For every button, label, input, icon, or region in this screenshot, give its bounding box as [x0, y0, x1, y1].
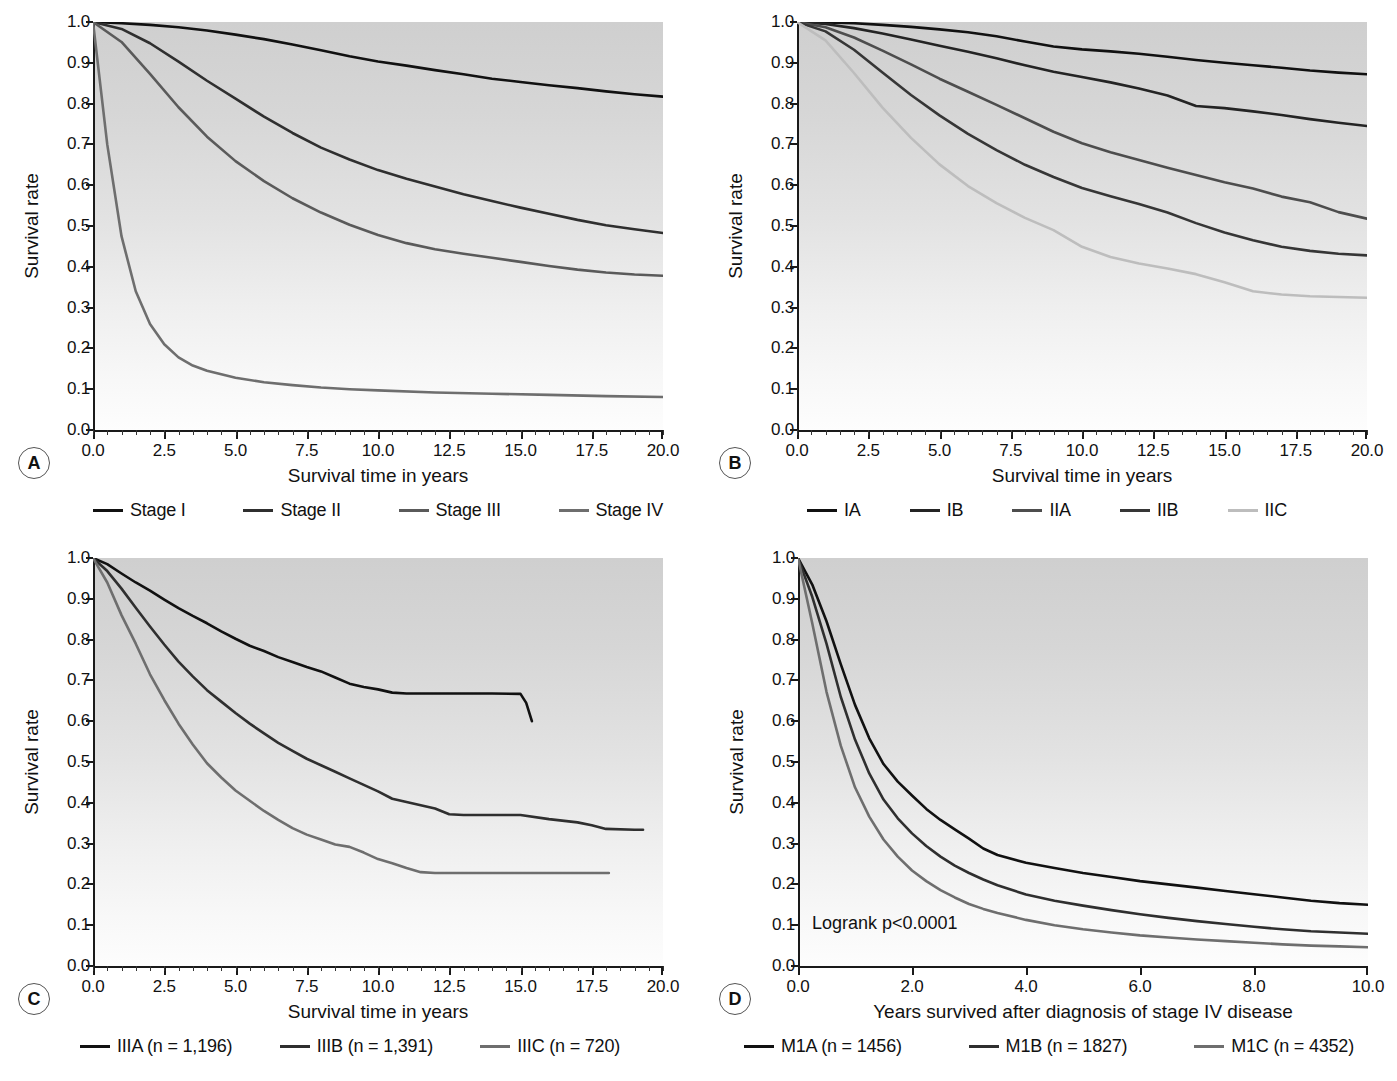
x-tick-label: 20.0 [647, 441, 679, 461]
x-tick-label: 20.0 [647, 977, 679, 997]
x-tick-label: 5.0 [928, 441, 951, 461]
y-tick-mark [86, 598, 93, 600]
legend-label: M1C (n = 4352) [1231, 1036, 1354, 1057]
legend-label: Stage III [436, 500, 501, 521]
legend-item[interactable]: M1A (n = 1456) [744, 1036, 902, 1057]
x-tick-label: 2.0 [900, 977, 923, 997]
x-minor-tick [264, 430, 265, 435]
x-minor-tick [435, 966, 436, 971]
y-tick-mark [86, 802, 93, 804]
x-minor-tick [449, 430, 450, 435]
x-minor-tick [606, 966, 607, 971]
x-minor-tick [1353, 430, 1354, 435]
y-axis-label-d: Survival rate [726, 702, 748, 822]
x-minor-tick [521, 430, 522, 435]
y-tick-mark [86, 184, 93, 186]
legend-item[interactable]: IB [910, 500, 964, 521]
legend-line-icon [480, 1045, 510, 1048]
legend-item[interactable]: Stage III [399, 500, 501, 521]
x-minor-tick [592, 430, 593, 435]
y-tick-mark [86, 347, 93, 349]
x-minor-tick [236, 430, 237, 435]
x-minor-tick [1267, 430, 1268, 435]
legend-item[interactable]: Stage II [243, 500, 340, 521]
x-minor-tick [1082, 430, 1083, 435]
x-tick-label: 2.5 [153, 977, 176, 997]
x-minor-tick [478, 966, 479, 971]
x-minor-tick [464, 966, 465, 971]
x-minor-tick [649, 966, 650, 971]
x-minor-tick [1125, 430, 1126, 435]
legend-item[interactable]: IIIC (n = 720) [480, 1036, 620, 1057]
plot-area-d: Logrank p<0.0001 0.00.10.20.30.40.50.60.… [798, 558, 1368, 966]
x-minor-tick [421, 966, 422, 971]
y-tick-mark [790, 225, 797, 227]
curves-a [93, 22, 663, 430]
x-minor-tick [307, 966, 308, 971]
x-tick-label: 17.5 [576, 977, 608, 997]
legend-item[interactable]: IIIA (n = 1,196) [80, 1036, 232, 1057]
x-minor-tick [278, 430, 279, 435]
x-minor-tick [264, 966, 265, 971]
y-tick-mark [791, 802, 798, 804]
legend-item[interactable]: IIIB (n = 1,391) [280, 1036, 433, 1057]
curves-d [798, 558, 1368, 966]
x-tick-label: 10.0 [362, 977, 394, 997]
figure-root: 0.00.10.20.30.40.50.60.70.80.91.00.02.55… [0, 0, 1397, 1081]
legend-line-icon [1120, 509, 1150, 512]
y-tick-mark [790, 266, 797, 268]
legend-label: IIIB (n = 1,391) [317, 1036, 433, 1057]
logrank-annotation: Logrank p<0.0001 [812, 913, 958, 934]
x-minor-tick [940, 430, 941, 435]
legend-item[interactable]: IIA [1012, 500, 1070, 521]
y-tick-mark [86, 924, 93, 926]
survival-curve [797, 22, 1367, 255]
legend-line-icon [399, 509, 429, 512]
x-tick-mark [1140, 966, 1142, 975]
x-minor-tick [1225, 430, 1226, 435]
y-tick-mark [86, 62, 93, 64]
y-tick-mark [86, 965, 93, 967]
x-minor-tick [293, 966, 294, 971]
legend-item[interactable]: Stage I [93, 500, 186, 521]
x-minor-tick [464, 430, 465, 435]
x-minor-tick [278, 966, 279, 971]
legend-line-icon [1012, 509, 1042, 512]
x-tick-mark [1366, 966, 1368, 975]
x-minor-tick [826, 430, 827, 435]
x-minor-tick [164, 430, 165, 435]
x-tick-label: 0.0 [785, 441, 808, 461]
x-minor-tick [1039, 430, 1040, 435]
x-minor-tick [1196, 430, 1197, 435]
x-tick-label: 12.5 [433, 441, 465, 461]
x-minor-tick [563, 430, 564, 435]
y-tick-mark [791, 557, 798, 559]
x-tick-label: 17.5 [576, 441, 608, 461]
x-tick-label: 10.0 [362, 441, 394, 461]
plot-area-c: 0.00.10.20.30.40.50.60.70.80.91.00.02.55… [93, 558, 663, 966]
legend-item[interactable]: M1C (n = 4352) [1194, 1036, 1354, 1057]
curves-b [797, 22, 1367, 430]
survival-curve [93, 22, 663, 233]
legend-line-icon [807, 509, 837, 512]
plot-area-a: 0.00.10.20.30.40.50.60.70.80.91.00.02.55… [93, 22, 663, 430]
y-tick-mark [791, 761, 798, 763]
x-minor-tick [578, 430, 579, 435]
x-minor-tick [1310, 430, 1311, 435]
legend-c: IIIA (n = 1,196)IIIB (n = 1,391)IIIC (n … [80, 1036, 620, 1057]
legend-item[interactable]: IIC [1228, 500, 1287, 521]
x-minor-tick [811, 430, 812, 435]
legend-item[interactable]: Stage IV [559, 500, 663, 521]
x-minor-tick [421, 430, 422, 435]
x-tick-label: 7.5 [999, 441, 1022, 461]
y-tick-mark [86, 266, 93, 268]
legend-item[interactable]: IA [807, 500, 861, 521]
y-tick-mark [791, 598, 798, 600]
legend-item[interactable]: M1B (n = 1827) [969, 1036, 1128, 1057]
y-tick-mark [791, 843, 798, 845]
x-minor-tick [1168, 430, 1169, 435]
x-minor-tick [164, 966, 165, 971]
x-tick-label: 12.5 [1137, 441, 1169, 461]
legend-item[interactable]: IIB [1120, 500, 1178, 521]
x-minor-tick [335, 966, 336, 971]
